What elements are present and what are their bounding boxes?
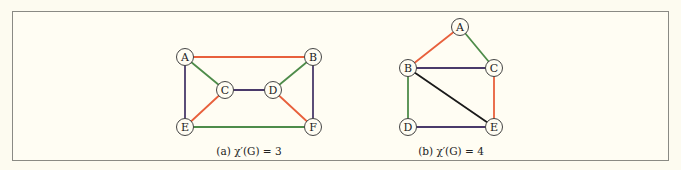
node-b-A: A: [452, 19, 469, 36]
node-a-A: A: [177, 49, 194, 66]
node-label: E: [490, 121, 498, 134]
node-label: A: [180, 51, 190, 64]
node-label: C: [221, 84, 229, 97]
node-label: B: [404, 62, 412, 75]
graph-b: ABCDE (b) χ′(G) = 4: [400, 19, 503, 158]
node-b-C: C: [486, 60, 503, 77]
node-label: F: [309, 121, 317, 134]
graph-b-nodes: ABCDE: [400, 19, 503, 136]
edge-b-B-E: [408, 68, 494, 127]
node-b-D: D: [400, 119, 417, 136]
graph-b-edges: [408, 27, 494, 127]
node-a-B: B: [305, 49, 322, 66]
node-label: E: [181, 121, 189, 134]
edge-b-A-B: [408, 27, 460, 68]
node-label: B: [309, 51, 317, 64]
node-a-C: C: [217, 82, 234, 99]
node-b-B: B: [400, 60, 417, 77]
node-label: D: [404, 121, 413, 134]
edge-coloring-figure: ABCDEF (a) χ′(G) = 3 ABCDE (b) χ′(G) = 4: [0, 0, 681, 170]
graph-a-edges: [185, 57, 313, 127]
node-a-E: E: [177, 119, 194, 136]
node-label: D: [269, 84, 278, 97]
caption-a: (a) χ′(G) = 3: [216, 145, 281, 157]
graph-a-nodes: ABCDEF: [177, 49, 322, 136]
caption-b: (b) χ′(G) = 4: [418, 145, 484, 157]
node-a-F: F: [305, 119, 322, 136]
node-a-D: D: [265, 82, 282, 99]
node-label: C: [490, 62, 498, 75]
node-b-E: E: [486, 119, 503, 136]
graph-a: ABCDEF (a) χ′(G) = 3: [177, 49, 322, 158]
node-label: A: [455, 21, 465, 34]
